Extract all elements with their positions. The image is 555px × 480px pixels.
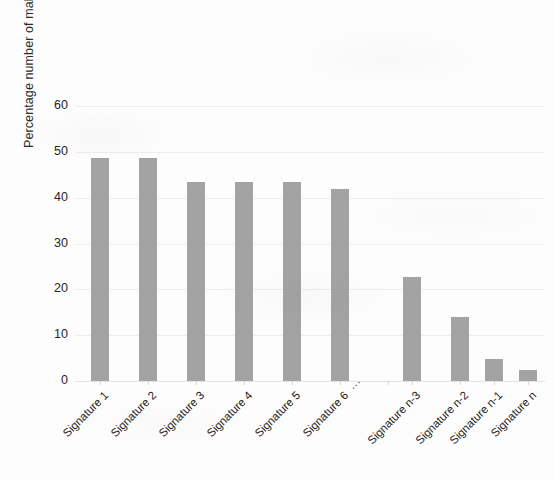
bar bbox=[139, 158, 157, 381]
bar bbox=[485, 359, 503, 381]
x-tick-mark bbox=[528, 381, 529, 385]
bar bbox=[187, 182, 205, 381]
x-axis-baseline bbox=[75, 381, 545, 382]
x-tick-mark bbox=[196, 381, 197, 385]
y-axis-tick-labels: 0102030405060 bbox=[36, 106, 68, 381]
y-tick-label-0: 0 bbox=[38, 373, 68, 387]
bar bbox=[331, 189, 349, 381]
bar bbox=[403, 277, 421, 382]
y-tick-label-10: 10 bbox=[38, 327, 68, 341]
y-tick-label-30: 30 bbox=[38, 236, 68, 250]
bar bbox=[519, 370, 537, 381]
bar bbox=[91, 158, 109, 381]
bar bbox=[235, 182, 253, 381]
x-tick-mark bbox=[494, 381, 495, 385]
y-tick-label-20: 20 bbox=[38, 281, 68, 295]
x-tick-mark bbox=[340, 381, 341, 385]
y-tick-label-40: 40 bbox=[38, 190, 68, 204]
bar-chart-figure: Percentage number of malwares (%) 010203… bbox=[0, 0, 555, 480]
bar bbox=[283, 182, 301, 381]
x-tick-mark bbox=[460, 381, 461, 385]
x-tick-mark bbox=[388, 381, 389, 385]
x-tick-mark bbox=[148, 381, 149, 385]
y-tick-label-50: 50 bbox=[38, 144, 68, 158]
y-tick-label-60: 60 bbox=[38, 98, 68, 112]
x-tick-mark bbox=[292, 381, 293, 385]
x-tick-mark bbox=[244, 381, 245, 385]
bar bbox=[451, 317, 469, 381]
x-tick-mark bbox=[100, 381, 101, 385]
x-tick-mark bbox=[412, 381, 413, 385]
bar-series bbox=[75, 106, 545, 381]
